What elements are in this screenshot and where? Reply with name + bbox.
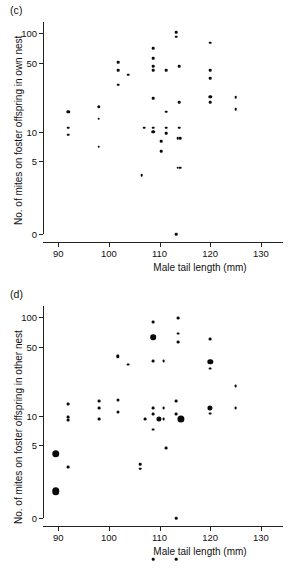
data-point bbox=[127, 73, 130, 76]
data-point bbox=[152, 320, 155, 323]
y-tick-mark bbox=[39, 161, 43, 162]
data-point bbox=[178, 126, 181, 129]
data-point bbox=[234, 385, 237, 388]
data-point bbox=[209, 77, 212, 80]
data-point bbox=[207, 359, 212, 364]
x-tick-label: 100 bbox=[101, 532, 117, 543]
data-point bbox=[67, 110, 70, 113]
data-point bbox=[117, 61, 120, 64]
x-tick-mark bbox=[261, 243, 262, 247]
data-point bbox=[67, 133, 70, 136]
y-tick-label: 0 bbox=[5, 513, 37, 524]
x-tick-label: 120 bbox=[202, 248, 218, 259]
data-point bbox=[152, 65, 155, 68]
x-tick-mark bbox=[109, 243, 110, 247]
x-tick-mark bbox=[261, 527, 262, 531]
data-point bbox=[209, 338, 212, 341]
x-tick-mark bbox=[210, 243, 211, 247]
data-point bbox=[234, 406, 237, 409]
x-tick-mark bbox=[210, 527, 211, 531]
data-point bbox=[160, 140, 163, 143]
data-point bbox=[152, 47, 155, 50]
panel-c-x-axis-line bbox=[43, 242, 283, 243]
y-tick-mark bbox=[39, 518, 43, 519]
y-tick-label: 50 bbox=[5, 341, 37, 352]
data-point bbox=[175, 558, 178, 561]
data-point bbox=[162, 359, 165, 362]
data-point bbox=[165, 110, 168, 113]
data-point bbox=[165, 132, 168, 135]
panel-d-plot-area: 05105010090100110120130 bbox=[43, 306, 271, 518]
data-point bbox=[209, 367, 212, 370]
x-tick-label: 90 bbox=[53, 532, 64, 543]
data-point bbox=[143, 126, 146, 129]
data-point bbox=[97, 146, 100, 149]
data-point bbox=[152, 126, 155, 129]
figure-root: (c) No. of mites on foster offspring in … bbox=[0, 0, 293, 568]
data-point bbox=[152, 97, 155, 100]
data-point bbox=[116, 410, 119, 413]
data-point bbox=[165, 447, 168, 450]
y-tick-label: 10 bbox=[5, 126, 37, 137]
data-point bbox=[208, 405, 213, 410]
data-point bbox=[162, 406, 165, 409]
data-point bbox=[67, 466, 70, 469]
x-tick-label: 130 bbox=[253, 248, 269, 259]
data-point bbox=[176, 341, 179, 344]
data-point bbox=[234, 108, 237, 111]
data-point bbox=[97, 105, 100, 108]
data-point bbox=[97, 118, 100, 121]
data-point bbox=[67, 403, 70, 406]
data-point bbox=[178, 65, 181, 68]
data-point bbox=[179, 137, 182, 140]
data-point bbox=[144, 417, 147, 420]
panel-c: (c) No. of mites on foster offspring in … bbox=[0, 0, 293, 284]
panel-d-x-axis-line bbox=[43, 526, 283, 527]
y-tick-label: 0 bbox=[5, 229, 37, 240]
y-tick-mark bbox=[39, 347, 43, 348]
y-tick-mark bbox=[39, 63, 43, 64]
x-tick-label: 110 bbox=[152, 248, 167, 259]
panel-c-label: (c) bbox=[10, 4, 23, 16]
y-tick-mark bbox=[39, 33, 43, 34]
panel-d-y-axis-line bbox=[43, 306, 44, 518]
y-tick-label: 100 bbox=[5, 28, 37, 39]
data-point bbox=[152, 558, 155, 561]
x-tick-label: 120 bbox=[202, 532, 218, 543]
data-point bbox=[152, 406, 155, 409]
data-point bbox=[67, 419, 70, 422]
y-tick-mark bbox=[39, 132, 43, 133]
data-point bbox=[141, 174, 144, 177]
y-tick-label: 5 bbox=[5, 156, 37, 167]
data-point bbox=[152, 130, 156, 134]
data-point bbox=[52, 488, 60, 496]
data-point bbox=[97, 400, 100, 403]
x-tick-mark bbox=[160, 527, 161, 531]
panel-d-x-axis-title: Male tail length (mm) bbox=[153, 546, 246, 557]
data-point bbox=[117, 69, 120, 72]
data-point bbox=[127, 363, 130, 366]
y-tick-mark bbox=[39, 317, 43, 318]
x-tick-label: 100 bbox=[101, 248, 117, 259]
y-tick-label: 10 bbox=[5, 410, 37, 421]
data-point bbox=[176, 317, 179, 320]
data-point bbox=[175, 233, 178, 236]
y-tick-mark bbox=[39, 234, 43, 235]
panel-d-y-axis-title: No. of mites on foster offspring in othe… bbox=[13, 330, 24, 524]
data-point bbox=[67, 126, 70, 129]
data-point bbox=[160, 150, 163, 153]
data-point bbox=[165, 126, 168, 129]
panel-d: (d) No. of mites on foster offspring in … bbox=[0, 284, 293, 568]
data-point bbox=[152, 359, 155, 362]
data-point bbox=[152, 428, 155, 431]
data-point bbox=[175, 517, 178, 520]
x-tick-label: 110 bbox=[152, 532, 167, 543]
data-point bbox=[152, 413, 155, 416]
x-tick-label: 130 bbox=[253, 532, 269, 543]
data-point bbox=[234, 96, 237, 99]
data-point bbox=[175, 31, 178, 34]
data-point bbox=[97, 417, 100, 420]
y-tick-mark bbox=[39, 445, 43, 446]
x-tick-mark bbox=[58, 527, 59, 531]
data-point bbox=[209, 412, 212, 415]
